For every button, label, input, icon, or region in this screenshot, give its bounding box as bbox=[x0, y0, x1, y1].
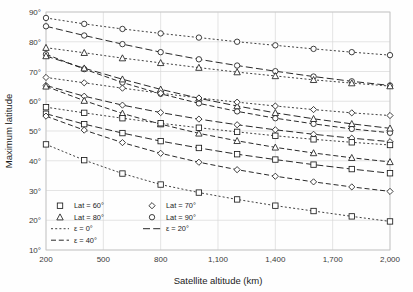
y-tick-label: 50° bbox=[29, 127, 41, 136]
marker-square bbox=[273, 133, 278, 138]
marker-square bbox=[234, 152, 239, 157]
marker-circle bbox=[43, 15, 48, 20]
chart-canvas: 10°20°30°40°50°60°70°80°90°2005008001,10… bbox=[0, 0, 413, 292]
y-tick-label: 70° bbox=[29, 68, 41, 77]
marker-circle bbox=[273, 43, 278, 48]
marker-square bbox=[387, 219, 392, 224]
marker-circle bbox=[120, 26, 125, 31]
legend-line-label: ε = 20° bbox=[166, 224, 189, 233]
chart-figure: 10°20°30°40°50°60°70°80°90°2005008001,10… bbox=[0, 0, 413, 292]
y-tick-label: 30° bbox=[29, 187, 41, 196]
marker-square bbox=[234, 197, 239, 202]
marker-square bbox=[120, 116, 125, 121]
x-tick-label: 2,000 bbox=[380, 255, 401, 264]
marker-circle bbox=[349, 49, 354, 54]
marker-square bbox=[120, 171, 125, 176]
legend-line-label: ε = 0° bbox=[74, 224, 93, 233]
marker-circle bbox=[43, 24, 48, 29]
marker-square bbox=[273, 203, 278, 208]
marker-square bbox=[273, 157, 278, 162]
marker-square bbox=[120, 130, 125, 135]
marker-square bbox=[311, 208, 316, 213]
marker-square bbox=[387, 142, 392, 147]
legend-line-label: ε = 40° bbox=[74, 236, 97, 245]
marker-square bbox=[82, 110, 87, 115]
y-tick-label: 60° bbox=[29, 97, 41, 106]
marker-square bbox=[196, 190, 201, 195]
marker-circle bbox=[196, 35, 201, 40]
x-tick-label: 1,100 bbox=[208, 255, 229, 264]
x-tick-label: 1,400 bbox=[265, 255, 286, 264]
legend-marker-label: Lat = 90° bbox=[166, 213, 196, 222]
marker-circle bbox=[234, 63, 239, 68]
y-tick-label: 20° bbox=[29, 216, 41, 225]
marker-circle bbox=[311, 121, 316, 126]
y-tick-label: 90° bbox=[29, 8, 41, 17]
x-axis-title: Satellite altitude (km) bbox=[174, 275, 263, 286]
marker-circle bbox=[196, 57, 201, 62]
marker-circle bbox=[234, 109, 239, 114]
y-tick-label: 40° bbox=[29, 157, 41, 166]
x-tick-label: 1,700 bbox=[323, 255, 344, 264]
marker-square bbox=[196, 145, 201, 150]
marker-circle bbox=[82, 21, 87, 26]
x-tick-label: 800 bbox=[154, 255, 168, 264]
marker-square bbox=[82, 157, 87, 162]
marker-square bbox=[158, 182, 163, 187]
legend-marker-label: Lat = 60° bbox=[74, 201, 104, 210]
marker-square bbox=[311, 162, 316, 167]
marker-square bbox=[234, 129, 239, 134]
marker-circle bbox=[82, 33, 87, 38]
marker-circle bbox=[158, 31, 163, 36]
chart-background bbox=[0, 0, 413, 292]
marker-square bbox=[349, 166, 354, 171]
marker-circle bbox=[149, 215, 154, 220]
marker-square bbox=[158, 138, 163, 143]
marker-square bbox=[349, 214, 354, 219]
marker-square bbox=[387, 171, 392, 176]
y-tick-label: 80° bbox=[29, 38, 41, 47]
legend-marker-label: Lat = 70° bbox=[166, 201, 196, 210]
marker-square bbox=[43, 142, 48, 147]
marker-circle bbox=[387, 52, 392, 57]
legend-marker-label: Lat = 80° bbox=[74, 213, 104, 222]
y-tick-label: 10° bbox=[29, 246, 41, 255]
marker-square bbox=[82, 121, 87, 126]
marker-square bbox=[196, 125, 201, 130]
x-tick-label: 200 bbox=[39, 255, 53, 264]
marker-square bbox=[311, 137, 316, 142]
marker-circle bbox=[349, 126, 354, 131]
marker-circle bbox=[311, 46, 316, 51]
marker-square bbox=[158, 121, 163, 126]
y-axis-title: Maximum latitude bbox=[3, 94, 14, 168]
marker-circle bbox=[120, 41, 125, 46]
x-tick-label: 500 bbox=[97, 255, 111, 264]
marker-square bbox=[57, 203, 62, 208]
marker-circle bbox=[234, 39, 239, 44]
marker-square bbox=[43, 105, 48, 110]
marker-square bbox=[349, 140, 354, 145]
marker-circle bbox=[273, 116, 278, 121]
marker-circle bbox=[158, 49, 163, 54]
